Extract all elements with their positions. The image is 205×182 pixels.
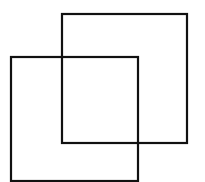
overlapping-squares-diagram — [0, 0, 205, 182]
front-square — [11, 57, 138, 181]
diagram-canvas — [0, 0, 205, 182]
back-square — [62, 14, 187, 143]
